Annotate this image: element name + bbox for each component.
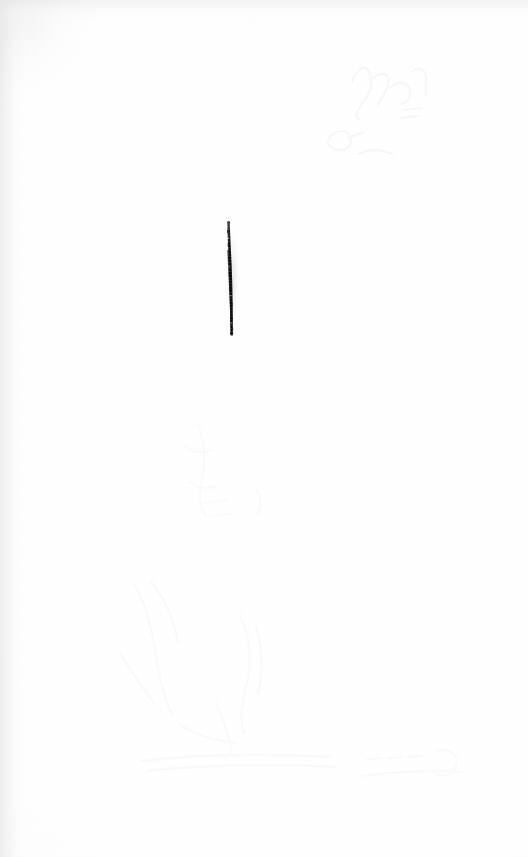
left-edge-scan-shadow <box>0 0 34 857</box>
scanned-page <box>0 0 528 857</box>
paper-background <box>0 0 528 857</box>
top-edge-scan-shadow <box>0 0 528 26</box>
vertical-ink-stroke <box>222 216 242 342</box>
